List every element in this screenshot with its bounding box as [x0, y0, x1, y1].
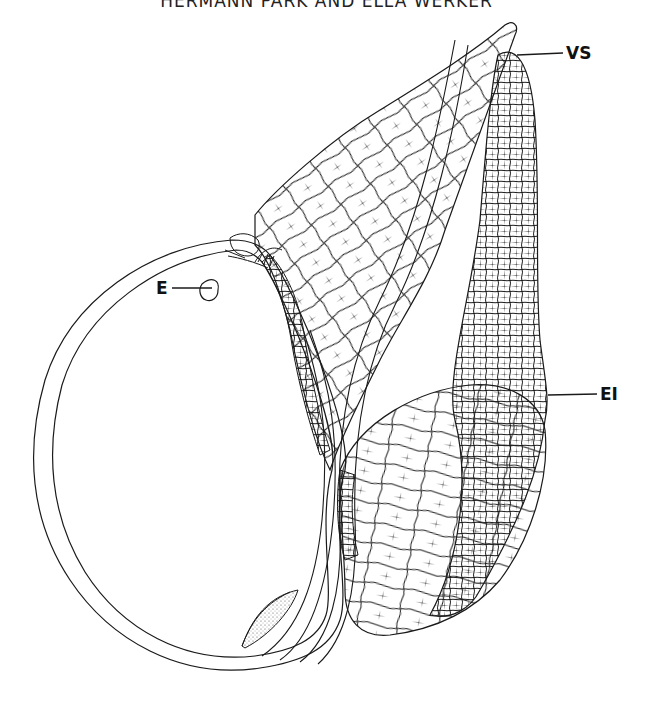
- stippled-tissue: [242, 590, 298, 648]
- label-vs: VS: [566, 45, 591, 62]
- embryo-shape: [200, 280, 218, 301]
- ovule-section-diagram: [0, 0, 653, 701]
- label-e: E: [156, 280, 168, 297]
- label-ei: EI: [600, 386, 618, 403]
- lower-cellular-mass: [340, 385, 546, 636]
